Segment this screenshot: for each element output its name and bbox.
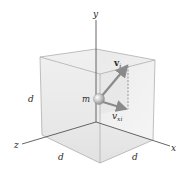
depth-dimension-label: d [58,152,64,162]
width-dimension-label: d [132,152,138,162]
box-front-faces [40,49,155,163]
front-left-face [40,57,100,163]
front-right-face [100,60,155,163]
y-axis-label: y [92,9,99,19]
particle-sphere [94,94,105,105]
mass-label: m [82,94,90,104]
z-axis-label: z [13,140,19,150]
x-axis-label: x [171,143,176,153]
height-dimension-label: d [28,94,34,104]
cube-diagram: y x z d d d m vi vxi [0,0,190,172]
